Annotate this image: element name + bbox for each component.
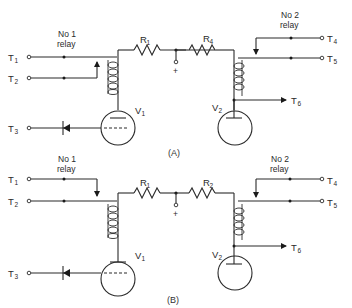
svg-text:5: 5 xyxy=(334,58,338,65)
tube-v1-label: V 1 xyxy=(135,250,146,262)
junction-dot xyxy=(63,56,66,59)
terminal-t4-node xyxy=(320,177,324,181)
relay2-label-2: relay xyxy=(280,20,299,30)
tube-v2-icon xyxy=(218,111,252,145)
resistor-r2-icon xyxy=(189,188,215,198)
svg-text:5: 5 xyxy=(334,202,338,209)
svg-text:T: T xyxy=(8,73,14,84)
relay2-coil-icon xyxy=(234,60,244,96)
junction-dot xyxy=(290,57,293,60)
svg-text:2: 2 xyxy=(219,107,223,114)
relay1-label: No 1 xyxy=(58,29,76,39)
svg-text:2: 2 xyxy=(15,201,19,208)
relay1-label: No 1 xyxy=(58,154,76,164)
terminal-t4-node xyxy=(320,36,324,40)
relay2-label: No 2 xyxy=(281,10,299,20)
resistor-r1: R 1 xyxy=(140,177,151,189)
terminal-t6: T 6 xyxy=(291,242,302,254)
svg-text:T: T xyxy=(327,175,333,186)
svg-text:1: 1 xyxy=(15,179,19,186)
terminal-t3-node xyxy=(27,271,31,275)
caption-a: (A) xyxy=(168,148,180,158)
svg-text:4: 4 xyxy=(334,38,338,45)
junction-dot xyxy=(63,77,66,80)
terminal-t1-node xyxy=(27,55,31,59)
junction-dot xyxy=(289,200,292,203)
terminal-t5-node xyxy=(320,56,324,60)
svg-text:T: T xyxy=(8,174,14,185)
terminal-t5: T 5 xyxy=(327,197,338,209)
tube-v2-label: V 2 xyxy=(212,249,223,261)
junction-dot xyxy=(290,37,293,40)
svg-text:3: 3 xyxy=(15,273,19,280)
terminal-t3: T 3 xyxy=(8,123,19,135)
diode-icon xyxy=(63,266,70,280)
terminal-t6: T 6 xyxy=(291,95,302,107)
svg-text:4: 4 xyxy=(334,180,338,187)
diagram-a: No 1 relay T 1 T 2 R xyxy=(8,10,338,158)
tube-v2-label: V 2 xyxy=(212,102,223,114)
diode-icon xyxy=(63,121,70,135)
svg-text:T: T xyxy=(327,33,333,44)
svg-text:1: 1 xyxy=(142,110,146,117)
relay1-coil-icon xyxy=(108,204,118,239)
supply-plus-label: + xyxy=(173,209,178,219)
terminal-t1: T 1 xyxy=(8,174,19,186)
resistor-r4: R 4 xyxy=(203,33,214,45)
supply-plus-label: + xyxy=(173,66,178,76)
svg-text:T: T xyxy=(327,197,333,208)
caption-b: (B) xyxy=(167,295,179,305)
svg-text:T: T xyxy=(8,52,14,63)
resistor-r1-icon xyxy=(134,45,160,55)
relay-circuit-figure: No 1 relay T 1 T 2 R xyxy=(0,0,352,308)
junction-dot xyxy=(63,178,66,181)
terminal-t2-node xyxy=(27,199,31,203)
svg-text:1: 1 xyxy=(142,255,146,262)
svg-text:2: 2 xyxy=(15,78,19,85)
relay1-label-2: relay xyxy=(57,39,76,49)
svg-text:6: 6 xyxy=(298,247,302,254)
relay1-label-2: relay xyxy=(57,164,76,174)
svg-text:T: T xyxy=(8,123,14,134)
terminal-t1: T 1 xyxy=(8,52,19,64)
terminal-t4: T 4 xyxy=(327,33,338,45)
svg-text:2: 2 xyxy=(219,254,223,261)
relay2-coil-icon xyxy=(234,204,244,240)
terminal-t5: T 5 xyxy=(327,53,338,65)
tube-v1-label: V 1 xyxy=(135,105,146,117)
svg-text:T: T xyxy=(8,268,14,279)
svg-text:T: T xyxy=(291,95,297,106)
terminal-t3: T 3 xyxy=(8,268,19,280)
tube-v1-icon xyxy=(101,262,135,296)
relay2-label: No 2 xyxy=(271,154,289,164)
resistor-r1-icon xyxy=(134,188,160,198)
svg-text:T: T xyxy=(291,242,297,253)
terminal-t1-node xyxy=(27,177,31,181)
terminal-t5-node xyxy=(320,199,324,203)
svg-text:T: T xyxy=(8,196,14,207)
svg-text:3: 3 xyxy=(15,128,19,135)
svg-text:4: 4 xyxy=(210,38,214,45)
relay1-coil-icon xyxy=(108,60,118,95)
tube-v2-icon xyxy=(218,256,252,290)
terminal-t2: T 2 xyxy=(8,196,19,208)
diagram-b: No 1 relay T 1 T 2 R xyxy=(8,154,338,305)
terminal-t4: T 4 xyxy=(327,175,338,187)
resistor-r1: R 1 xyxy=(140,34,151,46)
junction-dot xyxy=(63,200,66,203)
relay2-label-2: relay xyxy=(270,164,289,174)
svg-text:T: T xyxy=(327,53,333,64)
supply-terminal xyxy=(174,203,178,207)
junction-dot xyxy=(289,178,292,181)
svg-text:6: 6 xyxy=(298,100,302,107)
terminal-t2: T 2 xyxy=(8,73,19,85)
supply-terminal xyxy=(174,60,178,64)
terminal-t2-node xyxy=(27,76,31,80)
svg-text:1: 1 xyxy=(15,57,19,64)
terminal-t3-node xyxy=(27,126,31,130)
